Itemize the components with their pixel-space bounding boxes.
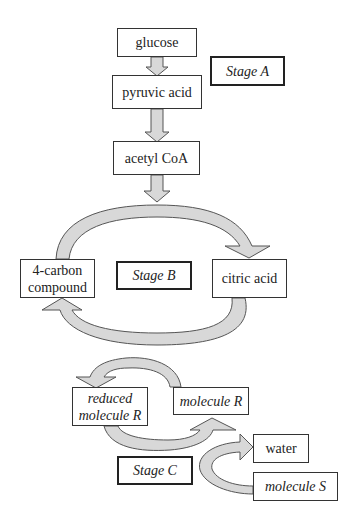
water-box: water	[253, 434, 309, 463]
water-label: water	[265, 440, 296, 457]
molecule-r-box: molecule R	[173, 387, 249, 415]
arrow-cycle-bottom	[42, 298, 246, 345]
reduced-molecule-r-box: reduced molecule R	[72, 387, 148, 426]
citric-acid-label: citric acid	[222, 270, 278, 287]
four-carbon-line1: 4-carbon	[33, 262, 83, 279]
molecule-s-label: molecule S	[265, 478, 326, 495]
pyruvic-acid-label: pyruvic acid	[122, 84, 192, 101]
glucose-box: glucose	[117, 28, 197, 57]
arrow-r-to-reduced	[76, 358, 181, 388]
four-carbon-compound-box: 4-carbon compound	[20, 259, 95, 298]
stage-c-label: Stage C	[133, 462, 177, 479]
arrow-glucose-to-pyruvic	[146, 57, 168, 76]
stage-c-box: Stage C	[117, 456, 193, 485]
arrow-s-to-water	[199, 434, 253, 494]
glucose-label: glucose	[136, 34, 179, 51]
citric-acid-box: citric acid	[212, 259, 287, 298]
stage-a-box: Stage A	[210, 56, 285, 86]
stage-b-box: Stage B	[116, 261, 192, 290]
arrow-acetyl-to-cycle	[144, 175, 170, 202]
molecule-r-label: molecule R	[180, 393, 243, 410]
acetyl-coa-label: acetyl CoA	[125, 150, 188, 167]
reduced-r-line1: reduced	[88, 390, 133, 407]
pyruvic-acid-box: pyruvic acid	[112, 75, 202, 109]
arrow-cycle-top	[56, 205, 270, 259]
acetyl-coa-box: acetyl CoA	[113, 141, 200, 175]
stage-a-label: Stage A	[226, 63, 269, 80]
arrow-pyruvic-to-acetyl	[145, 109, 169, 142]
four-carbon-line2: compound	[28, 279, 87, 296]
stage-b-label: Stage B	[132, 267, 175, 284]
reduced-r-line2: molecule R	[79, 407, 142, 424]
molecule-s-box: molecule S	[253, 472, 338, 501]
